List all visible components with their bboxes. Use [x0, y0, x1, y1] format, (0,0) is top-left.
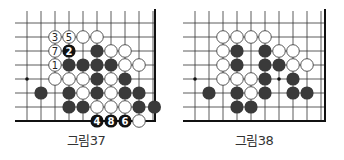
white-stone: [273, 45, 286, 58]
white-stone: [217, 73, 230, 86]
star-point: [193, 77, 197, 81]
black-stone: [258, 86, 271, 99]
black-stone: [286, 72, 299, 85]
white-stone: [217, 31, 230, 44]
white-stone: [217, 59, 230, 72]
white-stone: [231, 73, 244, 86]
white-stone: [245, 73, 258, 86]
black-stone: [230, 58, 243, 71]
figure-caption-38: 그림38: [168, 130, 340, 149]
black-stone: [258, 44, 271, 57]
black-stone: [300, 86, 313, 99]
black-stone: [202, 86, 215, 99]
black-stone: [258, 58, 271, 71]
white-stone: [259, 31, 272, 44]
black-stone: [272, 58, 285, 71]
go-board-38: [0, 0, 344, 130]
white-stone: [287, 45, 300, 58]
black-stone: [230, 86, 243, 99]
star-point: [277, 77, 281, 81]
black-stone: [230, 100, 243, 113]
white-stone: [231, 31, 244, 44]
black-stone: [286, 86, 299, 99]
white-stone: [245, 87, 258, 100]
white-stone: [301, 59, 314, 72]
figure-38: 그림38: [0, 0, 172, 160]
white-stone: [245, 31, 258, 44]
black-stone: [244, 100, 257, 113]
white-stone: [217, 45, 230, 58]
black-stone: [230, 44, 243, 57]
black-stone: [258, 72, 271, 85]
white-stone: [287, 59, 300, 72]
